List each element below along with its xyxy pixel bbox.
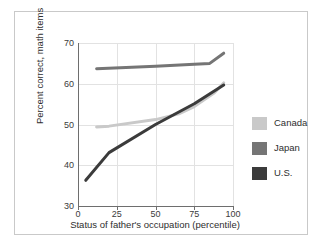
legend-swatch-us	[252, 167, 267, 180]
y-axis-tick-label: 70	[64, 39, 74, 48]
x-axis-tick-label: 50	[150, 210, 160, 219]
series-lines	[78, 43, 233, 206]
gridline-x	[233, 43, 234, 206]
x-axis-tick-label: 100	[225, 210, 240, 219]
chart-screenshot: 70 60 50 40 30 0 25 50 75 100 Percent co…	[0, 0, 324, 249]
x-axis-tick-label: 0	[75, 210, 80, 219]
series-line-us	[86, 85, 224, 180]
y-axis-tick-label: 30	[64, 202, 74, 211]
legend-item-japan[interactable]: Japan	[252, 141, 316, 155]
x-axis-tick-label: 25	[112, 210, 122, 219]
legend-label-us: U.S.	[274, 168, 292, 178]
x-axis-title: Status of father's occupation (percentil…	[70, 220, 240, 230]
y-axis-tick-label: 60	[64, 79, 74, 88]
y-axis-tick-label: 40	[64, 161, 74, 170]
y-axis-tick-label: 50	[64, 120, 74, 129]
legend-item-canada[interactable]: Canada	[252, 116, 316, 130]
plot-area: 70 60 50 40 30 0 25 50 75 100	[78, 43, 233, 206]
legend-swatch-canada	[252, 117, 267, 130]
x-axis-tick-label: 75	[189, 210, 199, 219]
chart-legend: Canada Japan U.S.	[252, 116, 316, 191]
legend-label-canada: Canada	[274, 118, 307, 128]
legend-label-japan: Japan	[274, 143, 300, 153]
y-axis-title: Percent correct, math items	[35, 8, 45, 124]
legend-swatch-japan	[252, 142, 267, 155]
chart-frame: 70 60 50 40 30 0 25 50 75 100 Percent co…	[14, 11, 308, 235]
series-line-japan	[97, 53, 224, 68]
legend-item-us[interactable]: U.S.	[252, 166, 316, 180]
